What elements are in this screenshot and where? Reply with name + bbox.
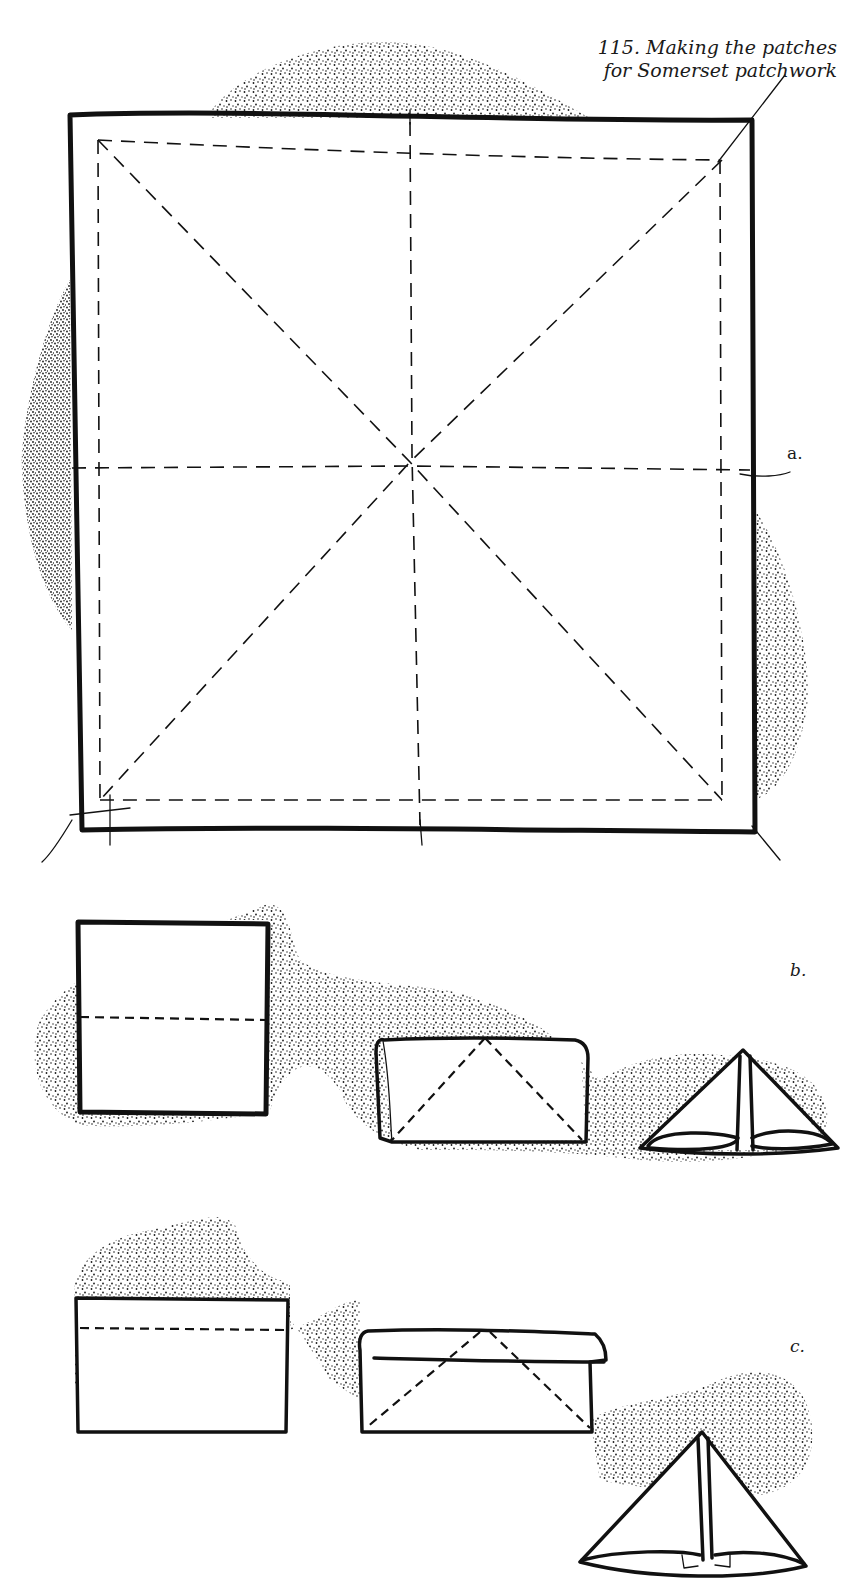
step-c-folded-rectangle [359,1330,606,1432]
step-b-folded-rectangle [376,1038,588,1142]
step-label-c: c. [790,1336,805,1356]
caption-line-1: 115. Making the patches [598,36,837,59]
caption-line-2: for Somerset patchwork [598,59,837,82]
step-c-rectangle [76,1298,288,1432]
somerset-patchwork-diagram [0,0,867,1592]
step-a-square [42,75,790,862]
step-b-square [78,920,268,1114]
step-label-b: b. [790,960,806,980]
stipple-shadow-a [22,42,808,800]
step-label-a: a. [787,443,803,463]
figure-caption: 115. Making the patches for Somerset pat… [598,36,837,82]
